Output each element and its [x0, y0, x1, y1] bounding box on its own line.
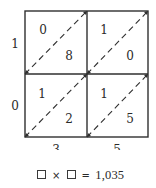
equation-result: 1,035 — [95, 168, 124, 182]
cell-r1c1-lower: 5 — [126, 112, 134, 126]
operand1-blank-box[interactable] — [37, 170, 46, 179]
times-operator: × — [52, 170, 61, 181]
left-digit-0: 1 — [11, 37, 19, 51]
bottom-digit-1: 5 — [113, 143, 121, 150]
left-digit-1: 0 — [11, 99, 19, 113]
operand2-blank-box[interactable] — [67, 170, 76, 179]
lattice-grid: 1 0 3 5 0 8 1 0 1 2 1 5 — [0, 0, 156, 150]
cell-r0c0-lower: 8 — [65, 49, 73, 63]
equation-line: ×=1,035 — [36, 168, 124, 183]
diagonal-r0c1 — [87, 11, 148, 74]
diagonal-r0c0 — [25, 11, 87, 74]
equation: ×=1,035 — [0, 168, 156, 188]
cell-r1c0-lower: 2 — [65, 112, 73, 126]
cell-r0c1-lower: 0 — [126, 49, 134, 63]
cell-r1c1-upper: 1 — [100, 87, 108, 101]
cell-r1c0-upper: 1 — [38, 87, 46, 101]
diagonal-r1c0 — [25, 74, 87, 137]
diagonal-r1c1 — [87, 74, 148, 137]
cell-r0c1-upper: 1 — [100, 23, 108, 37]
bottom-digit-0: 3 — [52, 143, 60, 150]
cell-r0c0-upper: 0 — [39, 23, 47, 37]
equals-sign: = — [82, 170, 91, 181]
